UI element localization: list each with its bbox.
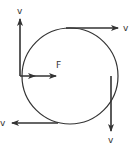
velocity-label-top: v: [123, 23, 129, 33]
velocity-label-right: v: [108, 135, 114, 145]
force-vector: F: [20, 60, 61, 79]
velocity-label-bottom: v: [0, 118, 6, 128]
velocity-vector-top: v: [66, 23, 129, 33]
force-label: F: [56, 60, 61, 70]
velocity-vector-left: v: [17, 6, 23, 76]
velocity-vector-right: v: [108, 76, 114, 145]
circular-motion-diagram: v v v v F: [0, 0, 130, 148]
velocity-label-left: v: [17, 6, 23, 16]
